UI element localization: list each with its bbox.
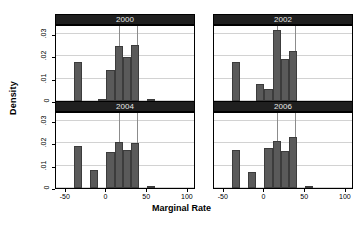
histogram-bar bbox=[131, 143, 139, 188]
panel-strip-2004: 2004 bbox=[55, 101, 195, 112]
y-axis-tick bbox=[52, 35, 55, 36]
x-axis-tick bbox=[105, 189, 106, 192]
y-axis-tick-label: .01 bbox=[33, 75, 49, 82]
x-axis-tick bbox=[223, 189, 224, 192]
plot-area-2000 bbox=[55, 25, 195, 102]
y-axis-tick bbox=[52, 144, 55, 145]
x-axis-title: Marginal Rate bbox=[0, 203, 363, 219]
figure: Density Marginal Rate 2000200220042006 0… bbox=[0, 0, 363, 231]
histogram-bar bbox=[305, 186, 313, 188]
histogram-bar bbox=[232, 150, 240, 188]
histogram-bar bbox=[123, 150, 131, 188]
histogram-bar bbox=[90, 170, 98, 188]
histogram-bar bbox=[123, 57, 131, 101]
x-axis-tick-label: -50 bbox=[208, 193, 238, 200]
histogram-bar bbox=[264, 148, 272, 188]
panel-strip-2006: 2006 bbox=[213, 101, 353, 112]
histogram-bar bbox=[115, 46, 123, 101]
x-axis-tick bbox=[65, 189, 66, 192]
plot-area-2002 bbox=[213, 25, 353, 102]
panel-strip-label: 2000 bbox=[116, 16, 134, 24]
histogram-bar bbox=[281, 59, 289, 101]
plot-area-2006 bbox=[213, 112, 353, 189]
y-axis-tick-label: .01 bbox=[33, 162, 49, 169]
histogram-bar bbox=[115, 142, 123, 188]
x-axis-tick-label: 50 bbox=[131, 193, 161, 200]
panel-strip-label: 2006 bbox=[274, 103, 292, 111]
gridline bbox=[214, 55, 352, 56]
y-axis-tick-label: .03 bbox=[33, 30, 49, 37]
gridline bbox=[56, 33, 194, 34]
histogram-bar bbox=[74, 146, 82, 188]
x-axis-tick bbox=[187, 189, 188, 192]
panel-strip-label: 2004 bbox=[116, 103, 134, 111]
plot-area-2004 bbox=[55, 112, 195, 189]
x-axis-tick-label: -50 bbox=[50, 193, 80, 200]
panel-2000: 2000 bbox=[55, 14, 195, 102]
y-axis-tick-label: .03 bbox=[33, 117, 49, 124]
histogram-bar bbox=[147, 186, 155, 188]
panel-strip-2000: 2000 bbox=[55, 14, 195, 25]
histogram-bar bbox=[264, 89, 272, 101]
histogram-bar bbox=[273, 141, 281, 188]
histogram-bar bbox=[281, 151, 289, 188]
histogram-bar bbox=[131, 45, 139, 101]
x-axis-title-label: Marginal Rate bbox=[152, 203, 211, 213]
histogram-bar bbox=[273, 30, 281, 101]
y-axis-tick bbox=[52, 167, 55, 168]
panel-strip-label: 2002 bbox=[274, 16, 292, 24]
x-axis-tick-label: 100 bbox=[330, 193, 360, 200]
histogram-bar bbox=[106, 70, 114, 101]
x-axis-tick-label: 50 bbox=[289, 193, 319, 200]
gridline bbox=[56, 120, 194, 121]
histogram-bar bbox=[289, 51, 297, 101]
y-axis-tick bbox=[52, 57, 55, 58]
panel-2002: 2002 bbox=[213, 14, 353, 102]
gridline bbox=[214, 33, 352, 34]
x-axis-tick-label: 0 bbox=[248, 193, 278, 200]
histogram-bar bbox=[74, 62, 82, 101]
y-axis-tick-label: 0 bbox=[33, 97, 49, 104]
x-axis-tick bbox=[146, 189, 147, 192]
panel-2004: 2004 bbox=[55, 101, 195, 189]
x-axis-tick bbox=[345, 189, 346, 192]
panel-2006: 2006 bbox=[213, 101, 353, 189]
histogram-bar bbox=[232, 62, 240, 102]
panel-strip-2002: 2002 bbox=[213, 14, 353, 25]
y-axis-tick bbox=[52, 122, 55, 123]
x-axis-tick-label: 0 bbox=[90, 193, 120, 200]
x-axis-tick-label: 100 bbox=[172, 193, 202, 200]
histogram-bar bbox=[248, 172, 256, 188]
y-axis-title-label: Density bbox=[8, 81, 18, 115]
y-axis-tick-label: .02 bbox=[33, 52, 49, 59]
y-axis-tick bbox=[52, 189, 55, 190]
y-axis-tick-label: 0 bbox=[33, 184, 49, 191]
x-axis-tick bbox=[304, 189, 305, 192]
y-axis-tick bbox=[52, 102, 55, 103]
y-axis-title: Density bbox=[4, 0, 22, 195]
gridline bbox=[56, 142, 194, 143]
y-axis-tick-label: .02 bbox=[33, 139, 49, 146]
histogram-bar bbox=[256, 84, 264, 101]
histogram-bar bbox=[106, 152, 114, 188]
histogram-bar bbox=[289, 137, 297, 188]
gridline bbox=[214, 142, 352, 143]
y-axis-tick bbox=[52, 80, 55, 81]
gridline bbox=[214, 120, 352, 121]
x-axis-tick bbox=[263, 189, 264, 192]
